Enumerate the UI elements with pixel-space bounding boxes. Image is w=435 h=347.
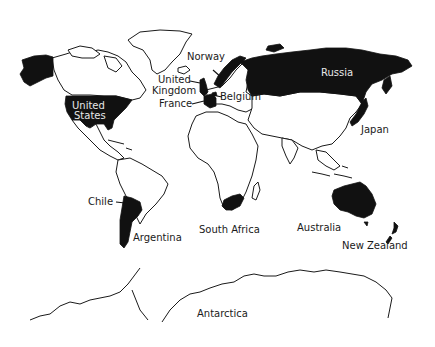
- uk-leader: [190, 81, 200, 83]
- canada: [52, 50, 146, 100]
- label-australia: Australia: [297, 222, 341, 233]
- label-argentina: Argentina: [133, 232, 182, 243]
- southeast-asia: [316, 150, 340, 170]
- label-france: France: [159, 98, 192, 109]
- canadian-islands: [68, 46, 100, 58]
- asia: [248, 92, 362, 150]
- label-belgium: Belgium: [220, 91, 261, 102]
- label-antarctica: Antarctica: [197, 308, 248, 319]
- world-map: Norway United Kingdom France Belgium Rus…: [0, 0, 435, 347]
- alaska: [20, 55, 53, 86]
- label-united-states-line2: States: [74, 110, 106, 121]
- label-new-zealand: New Zealand: [342, 240, 408, 251]
- label-united-kingdom-line2: Kingdom: [152, 85, 196, 96]
- africa: [188, 112, 258, 210]
- label-norway: Norway: [187, 51, 225, 62]
- label-south-africa: South Africa: [199, 224, 260, 235]
- label-russia: Russia: [321, 67, 353, 78]
- united-kingdom: [200, 78, 208, 96]
- madagascar: [252, 182, 260, 200]
- antarctica-peninsula: [30, 268, 148, 320]
- france-leader: [192, 101, 204, 104]
- mexico: [72, 120, 124, 160]
- australia: [332, 182, 376, 218]
- iceland: [178, 66, 190, 74]
- tasmania: [364, 222, 368, 226]
- belgium: [212, 92, 217, 96]
- label-united-kingdom-line1: United: [158, 74, 191, 85]
- label-japan: Japan: [361, 124, 389, 135]
- russia-arctic-island: [266, 44, 284, 52]
- label-chile: Chile: [88, 196, 113, 207]
